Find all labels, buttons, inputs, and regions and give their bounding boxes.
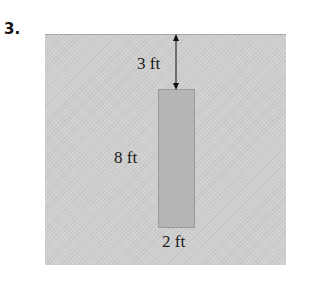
submerged-plate [158,89,195,228]
depth-label: 3 ft [137,54,160,74]
problem-number: 3. [4,20,20,38]
width-label: 2 ft [162,232,185,252]
height-label: 8 ft [114,148,137,168]
depth-arrow-icon [170,34,182,90]
